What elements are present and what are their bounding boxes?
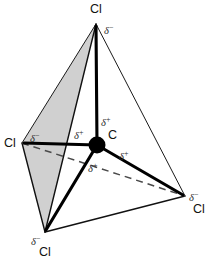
- bond-c-to-cl-top: [96, 26, 97, 145]
- atom-label-cl-bottomleft: Cl: [39, 245, 51, 258]
- bond-c-to-cl-right: [97, 145, 183, 195]
- edge-bottomleft-to-right: [45, 196, 185, 232]
- atom-label-cl-left: Cl: [4, 136, 16, 150]
- charge-delta-minus-right: δ−: [189, 190, 199, 204]
- charge-delta-plus-down: δ+: [88, 161, 98, 175]
- shaded-face-front-left: [22, 24, 96, 232]
- charge-delta-plus-left: δ+: [74, 128, 84, 142]
- molecule-svg-canvas: Cl Cl Cl Cl C δ− δ− δ− δ− δ+ δ+ δ+ δ+: [0, 0, 213, 258]
- carbon-atom-dot: [89, 137, 106, 154]
- atom-label-carbon: C: [108, 128, 117, 142]
- charge-delta-minus-top: δ−: [104, 23, 114, 37]
- atom-label-cl-right: Cl: [193, 202, 205, 216]
- charge-delta-plus-up: δ+: [101, 115, 111, 129]
- atom-label-cl-top: Cl: [90, 2, 102, 16]
- tetrahedral-molecule-diagram: Cl Cl Cl Cl C δ− δ− δ− δ− δ+ δ+ δ+ δ+: [0, 0, 213, 258]
- bond-c-to-cl-left: [24, 143, 97, 145]
